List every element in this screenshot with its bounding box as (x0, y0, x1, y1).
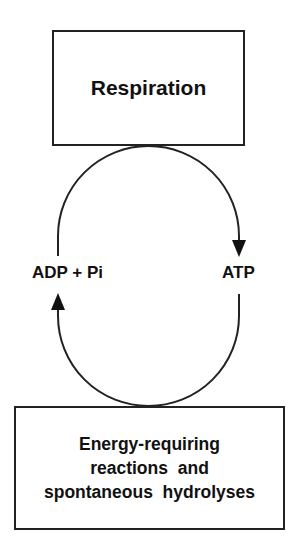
respiration-label: Respiration (91, 76, 207, 100)
bottom-box-line-1: Energy-requiring (79, 432, 220, 456)
top-arc-arrow (58, 146, 239, 256)
arrowhead-down-icon (232, 240, 246, 257)
arrowhead-up-icon (51, 293, 65, 310)
atp-label: ATP (222, 263, 255, 283)
adp-pi-label: ADP + Pi (32, 263, 103, 283)
energy-requiring-box: Energy-requiring reactions and spontaneo… (14, 406, 285, 530)
bottom-box-line-2: reactions and (90, 456, 209, 480)
respiration-box: Respiration (52, 30, 245, 146)
bottom-arc-arrow (58, 294, 239, 406)
bottom-box-line-3: spontaneous hydrolyses (44, 480, 255, 504)
